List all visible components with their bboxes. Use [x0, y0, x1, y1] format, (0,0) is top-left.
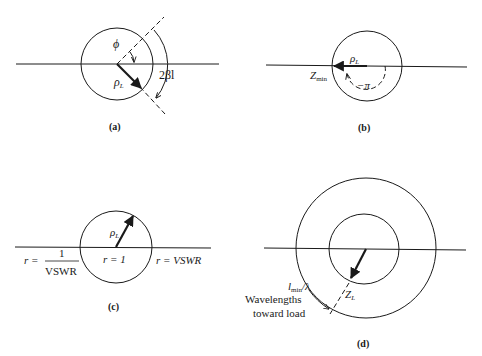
lmin-label: lmin/λ	[288, 280, 310, 294]
panel-c: ρL r = 1 VSWR r = 1 r = VSWR (c)	[15, 211, 211, 313]
load-impedance-arrow	[351, 249, 366, 278]
direction-label-line2: toward load	[253, 307, 306, 319]
fraction-denominator: VSWR	[45, 265, 77, 277]
phi-angle-arc	[130, 52, 134, 62]
figure-canvas: ϕ ρL 2βl (a) ρL Zmin −π (b) ρL r = 1 VSW…	[0, 0, 482, 356]
caption-d: (d)	[357, 338, 369, 350]
two-beta-l-label: 2βl	[159, 68, 175, 82]
r-min-label: r =	[24, 254, 38, 266]
caption-a: (a)	[109, 121, 121, 133]
caption-b: (b)	[358, 122, 370, 134]
zmin-label: Zmin	[310, 69, 328, 83]
caption-c: (c)	[108, 301, 119, 313]
r-max-label: r = VSWR	[156, 254, 202, 266]
minus-pi-label: −π	[357, 79, 370, 91]
rho-label: ρL	[113, 75, 124, 90]
direction-label-line1: Wavelengths	[245, 293, 302, 305]
rho-label: ρL	[349, 52, 359, 66]
fraction-numerator: 1	[59, 247, 65, 259]
zl-label: ZL	[345, 288, 355, 302]
r-center-label: r = 1	[103, 253, 126, 265]
panel-d: lmin/λ ZL Wavelengths toward load (d)	[245, 178, 466, 350]
phi-label: ϕ	[113, 37, 119, 51]
panel-a: ϕ ρL 2βl (a)	[16, 17, 219, 133]
outer-wavelength-circle	[296, 178, 436, 318]
phase-reference-dashed-line	[117, 17, 164, 64]
panel-b: ρL Zmin −π (b)	[266, 31, 467, 134]
real-axis-line	[15, 247, 211, 248]
rho-label: ρL	[109, 226, 119, 240]
